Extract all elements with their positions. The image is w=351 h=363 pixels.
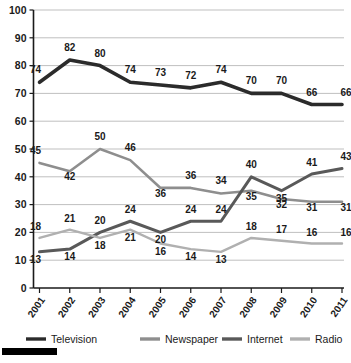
data-label: 13 [215,254,227,265]
data-label: 70 [246,75,258,86]
y-tick-label: 90 [15,32,27,44]
data-label: 16 [340,227,351,238]
legend-label-newspaper: Newspaper [165,333,219,345]
data-label: 50 [94,131,106,142]
data-label: 40 [246,159,258,170]
data-label: 18 [94,240,106,251]
data-label: 46 [125,142,137,153]
data-label: 72 [185,70,197,81]
data-label: 36 [185,170,197,181]
data-label: 21 [64,213,76,224]
legend-label-radio: Radio [315,333,343,345]
y-tick-label: 100 [9,4,27,16]
data-label: 24 [185,204,197,215]
y-tick-label: 30 [15,198,27,210]
data-label: 16 [155,246,167,257]
data-label: 17 [276,224,288,235]
data-label: 70 [276,75,288,86]
data-label: 21 [125,232,137,243]
y-tick-label: 80 [15,59,27,71]
data-label: 24 [215,204,227,215]
data-label: 74 [125,64,137,75]
data-label: 73 [155,67,167,78]
data-label: 13 [30,254,42,265]
y-tick-label: 10 [15,254,27,266]
data-label: 45 [30,145,42,156]
line-chart: 0102030405060708090100 20012002200320042… [0,0,351,363]
data-label: 24 [125,204,137,215]
y-tick-label: 20 [15,226,27,238]
data-label: 36 [155,188,167,199]
data-label: 14 [64,251,76,262]
y-tick-label: 50 [15,143,27,155]
data-label: 74 [215,64,227,75]
data-label: 18 [30,221,42,232]
data-label: 20 [155,234,167,245]
legend-label-television: Television [51,333,97,345]
data-label: 42 [64,171,76,182]
data-label: 20 [94,215,106,226]
y-tick-label: 70 [15,87,27,99]
y-tick-label: 0 [21,282,27,294]
footer-marker-bar [2,348,57,355]
data-label: 82 [64,42,76,53]
data-label: 66 [306,87,318,98]
data-label: 31 [340,202,351,213]
data-label: 31 [306,202,318,213]
data-label: 16 [306,227,318,238]
legend-label-internet: Internet [247,333,283,345]
data-label: 34 [215,175,227,186]
data-label: 41 [306,157,318,168]
data-label: 66 [340,87,351,98]
y-tick-label: 40 [15,171,27,183]
data-label: 18 [246,221,258,232]
data-label: 80 [94,48,106,59]
data-label: 35 [246,191,258,202]
data-label: 35 [276,193,288,204]
chart-container: 0102030405060708090100 20012002200320042… [0,0,351,363]
data-label: 14 [185,251,197,262]
data-label: 74 [30,64,42,75]
y-tick-label: 60 [15,115,27,127]
data-label: 43 [340,151,351,162]
